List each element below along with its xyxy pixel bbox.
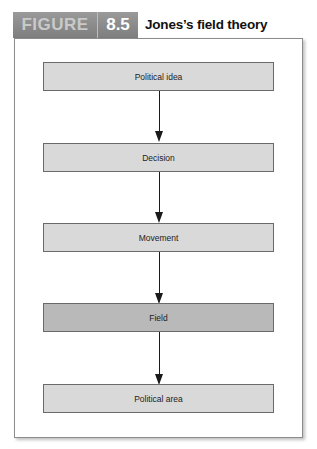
- arrowhead-icon: [155, 131, 163, 142]
- node-political-idea: Political idea: [43, 62, 274, 91]
- node-political-area: Political area: [43, 384, 274, 413]
- figure-number: 8.5: [98, 12, 138, 38]
- figure-header-tab: FIGURE 8.5: [13, 12, 138, 38]
- node-field: Field: [43, 303, 274, 332]
- figure-title: Jones’s field theory: [145, 14, 267, 36]
- node-decision: Decision: [43, 143, 274, 172]
- figure-label: FIGURE: [13, 12, 98, 38]
- arrowhead-icon: [155, 212, 163, 223]
- node-movement: Movement: [43, 223, 274, 252]
